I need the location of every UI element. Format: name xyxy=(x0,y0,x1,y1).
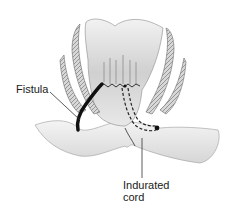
anatomical-illustration xyxy=(0,0,230,214)
internal-opening-dot xyxy=(123,84,126,87)
indurated-cord-label-line1: Indurated xyxy=(123,179,169,191)
external-opening-dot xyxy=(155,126,160,131)
fistula-label: Fistula xyxy=(16,83,48,95)
perianal-skin xyxy=(35,121,219,163)
indurated-cord-label: Indurated cord xyxy=(123,179,169,203)
indurated-cord-label-line2: cord xyxy=(123,191,169,203)
